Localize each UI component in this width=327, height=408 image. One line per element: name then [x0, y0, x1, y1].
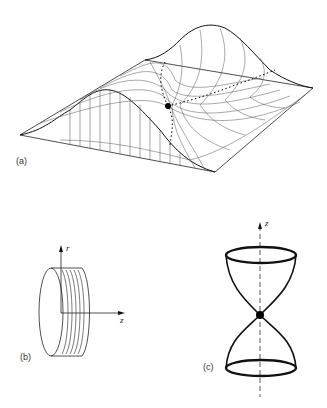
panel-c-z-label: z [265, 218, 269, 228]
panel-a-label: (a) [16, 156, 27, 166]
panel-b-r-label: r [66, 243, 70, 253]
panel-b-disc [39, 245, 125, 356]
panel-b-label: (b) [20, 352, 31, 362]
panel-c-label: (c) [203, 362, 214, 372]
figure-canvas [0, 0, 327, 408]
panel-b-z-label: z [120, 315, 124, 325]
panel-a-surface [20, 25, 313, 172]
vertex-point [256, 311, 264, 319]
saddle-point-marker [165, 103, 171, 109]
panel-c-double-cone [226, 222, 296, 397]
